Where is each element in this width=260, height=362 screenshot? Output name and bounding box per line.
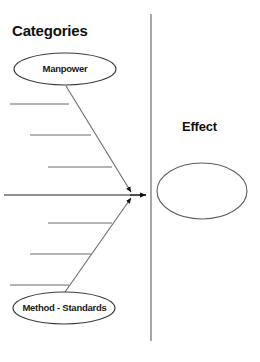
- categories-heading: Categories: [12, 22, 88, 39]
- effect-heading: Effect: [182, 119, 217, 134]
- fishbone-diagram-canvas: Categories Effect Manpower Method - Stan…: [0, 0, 260, 362]
- category-bone-method: [65, 198, 131, 292]
- category-label-method: Method - Standards: [13, 302, 116, 313]
- category-label-manpower: Manpower: [14, 63, 116, 74]
- category-bone-manpower: [66, 86, 131, 192]
- effect-ellipse: [157, 163, 247, 219]
